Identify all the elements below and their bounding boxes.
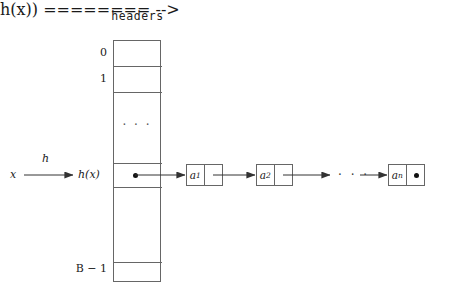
hashed-index-label: h(x) [78, 168, 100, 181]
chain-node-n-value-subscript: n [398, 171, 403, 180]
bucket-index-label-last: B − 1 [60, 262, 107, 275]
chain-node-n-value: an [389, 165, 407, 185]
bucket-array [113, 40, 161, 282]
chain-node-2-value-subscript: 2 [266, 171, 271, 180]
input-key-label: x [10, 168, 16, 181]
hash-function-label: h [42, 152, 49, 165]
null-pointer-dot [414, 173, 419, 178]
bucket-pointer-dot [133, 173, 138, 178]
bucket-cell-last [114, 263, 162, 283]
chain-node-n-next-null [407, 165, 425, 185]
chain-node-1-value-subscript: 1 [196, 171, 201, 180]
bucket-array-vertical-ellipsis: · · · [113, 118, 161, 132]
chain-node-1: a1 [186, 164, 223, 186]
chain-node-2-value: a2 [257, 165, 275, 185]
bucket-cell-lower [114, 188, 162, 263]
headers-array-title: headers [0, 9, 275, 23]
bucket-index-label-0: 0 [80, 46, 107, 59]
hash-table-chaining-diagram: headers · · · 0 1 B − 1 h(x)) ======== -… [0, 0, 460, 297]
arrow-layer: h(x) --> [0, 0, 460, 297]
bucket-cell-1 [114, 67, 162, 93]
chain-ellipsis: · · · [338, 168, 370, 182]
chain-node-n: an [388, 164, 425, 186]
bucket-index-label-1: 1 [80, 72, 107, 85]
chain-node-1-value: a1 [187, 165, 205, 185]
bucket-cell-0 [114, 41, 162, 67]
chain-node-1-next [205, 165, 223, 185]
chain-node-2: a2 [256, 164, 293, 186]
bucket-cell-hashed [114, 164, 162, 188]
chain-node-2-next [275, 165, 293, 185]
